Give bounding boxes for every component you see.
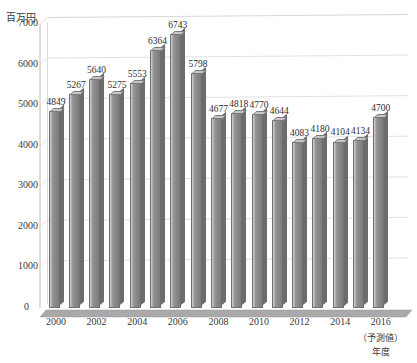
bar xyxy=(150,50,161,308)
bar-side-face xyxy=(283,113,287,305)
bar-side-face xyxy=(222,112,226,305)
bar xyxy=(211,118,222,308)
bar-side-face xyxy=(384,111,388,305)
bar-front-face xyxy=(150,50,161,308)
x-axis-forecast-note: （予測値） xyxy=(351,331,411,344)
bar-chart: 百万円 1000200030004000500060007000 4849526… xyxy=(0,0,417,363)
bar-side-face xyxy=(141,77,145,305)
bar-side-face xyxy=(263,108,267,305)
plot-area: 1000200030004000500060007000 48495267564… xyxy=(0,0,417,363)
x-axis-tick-label: 2006 xyxy=(158,316,198,328)
bar-side-face xyxy=(120,88,124,305)
bar xyxy=(69,94,80,308)
bar-value-label: 4644 xyxy=(262,106,296,116)
bar-side-face xyxy=(303,136,307,305)
bar-side-face xyxy=(202,67,206,305)
bar-side-face xyxy=(181,28,185,305)
x-axis-tick-label: 2008 xyxy=(198,316,238,328)
bar-front-face xyxy=(312,138,323,308)
bar xyxy=(170,34,181,308)
bar-side-face xyxy=(242,106,246,305)
bar-side-face xyxy=(344,135,348,305)
bar-side-face xyxy=(364,134,368,305)
bar-front-face xyxy=(89,79,100,308)
bar-value-label: 6743 xyxy=(161,20,195,30)
bar-front-face xyxy=(252,114,263,308)
x-axis-title: 年度 xyxy=(351,345,411,358)
bar-front-face xyxy=(109,94,120,308)
x-axis-tick-label: 2000 xyxy=(36,316,76,328)
bar-front-face xyxy=(272,120,283,308)
bar-value-label: 5640 xyxy=(80,65,114,75)
bar xyxy=(252,114,263,308)
bar xyxy=(191,73,202,308)
bar-front-face xyxy=(49,111,60,308)
bar xyxy=(109,94,120,308)
bar xyxy=(292,142,303,308)
x-axis-tick-label: 2012 xyxy=(280,316,320,328)
bar xyxy=(89,79,100,308)
bar-side-face xyxy=(323,132,327,305)
bar-front-face xyxy=(191,73,202,308)
bar-front-face xyxy=(69,94,80,308)
bar xyxy=(231,113,242,308)
bar xyxy=(272,120,283,308)
bar-value-label: 4700 xyxy=(364,103,398,113)
bar-front-face xyxy=(130,83,141,308)
y-axis-zero-label: 0 xyxy=(24,301,29,312)
bar-front-face xyxy=(373,117,384,308)
bar xyxy=(353,140,364,308)
x-axis-tick-label: 2002 xyxy=(77,316,117,328)
bar-front-face xyxy=(292,142,303,308)
bar xyxy=(312,138,323,308)
x-axis-tick-label: 2014 xyxy=(320,316,360,328)
x-axis-tick-label: 2010 xyxy=(239,316,279,328)
x-axis-ticks: 200020022004200620082010201220142016 xyxy=(0,316,417,330)
bar xyxy=(130,83,141,308)
x-axis-tick-label: 2004 xyxy=(117,316,157,328)
bar xyxy=(373,117,384,308)
x-axis-tick-label: 2016 xyxy=(361,316,401,328)
bar-front-face xyxy=(170,34,181,308)
bar-series: 4849526756405275555363646743579846774818… xyxy=(0,0,417,363)
bar-value-label: 5798 xyxy=(181,59,215,69)
bar-side-face xyxy=(161,44,165,305)
bar-side-face xyxy=(80,88,84,305)
bar-front-face xyxy=(353,140,364,308)
bar-front-face xyxy=(333,142,344,309)
bar-side-face xyxy=(100,73,104,305)
bar-front-face xyxy=(211,118,222,308)
bar xyxy=(49,111,60,308)
bar-front-face xyxy=(231,113,242,308)
bar-side-face xyxy=(60,105,64,305)
bar xyxy=(333,142,344,309)
